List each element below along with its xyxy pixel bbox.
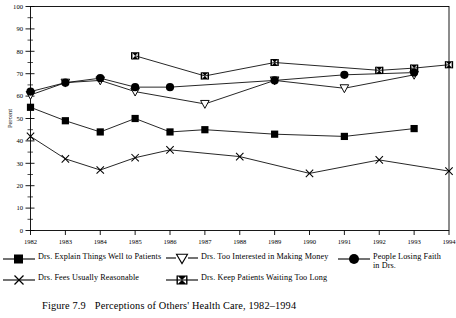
data-point — [271, 131, 278, 138]
bowtie-icon — [165, 273, 199, 287]
data-point — [201, 72, 208, 79]
legend-item-label: Drs. Explain Things Well to Patients — [36, 252, 161, 261]
y-axis-tick-label: 60 — [16, 92, 23, 99]
data-point — [166, 83, 174, 91]
x-axis-tick-label: 1989 — [268, 238, 282, 245]
legend-item-label: Drs. Keep Patients Waiting Too Long — [199, 273, 327, 282]
x-axis-tick-label: 1990 — [303, 238, 317, 245]
x-axis-tick-label: 1992 — [373, 238, 386, 245]
figure-caption: Figure 7.9Perceptions of Others' Health … — [0, 300, 456, 318]
data-point — [340, 71, 348, 79]
y-axis-tick-label: 20 — [16, 182, 23, 189]
y-axis-tick-label: 30 — [16, 160, 23, 167]
line-chart: 0102030405060708090100Percent19821983198… — [0, 0, 456, 248]
legend-row-2: Drs. Fees Usually Reasonable Drs. Keep P… — [0, 273, 456, 289]
data-point — [97, 166, 104, 173]
data-point — [27, 104, 34, 111]
legend-item-explain-things[interactable]: Drs. Explain Things Well to Patients — [2, 252, 192, 266]
y-axis-tick-label: 90 — [16, 25, 23, 32]
data-point — [306, 170, 313, 177]
y-axis-tick-label: 40 — [16, 137, 23, 144]
legend-item-too-interested[interactable]: Drs. Too Interested in Making Money — [165, 252, 360, 266]
data-point — [341, 133, 348, 140]
y-axis-tick-label: 80 — [16, 48, 23, 55]
data-point — [201, 126, 208, 133]
x-axis-tick-label: 1986 — [163, 238, 177, 245]
y-axis-tick-label: 70 — [16, 70, 23, 77]
data-point — [271, 76, 279, 84]
y-axis-tick-label: 10 — [16, 204, 23, 211]
data-point — [132, 115, 139, 122]
series-0 — [27, 104, 418, 140]
legend-row-1: Drs. Explain Things Well to Patients Drs… — [0, 252, 456, 268]
figure-container: 0102030405060708090100Percent19821983198… — [0, 0, 456, 318]
data-point — [201, 100, 210, 108]
legend-item-fees-reasonable[interactable]: Drs. Fees Usually Reasonable — [2, 273, 192, 287]
legend-item-label: Drs. Too Interested in Making Money — [199, 252, 328, 261]
legend-item-label: Drs. Fees Usually Reasonable — [36, 273, 139, 282]
data-point — [97, 128, 104, 135]
x-axis-tick-label: 1983 — [59, 238, 73, 245]
data-point — [132, 52, 139, 59]
chart-plot-area: 0102030405060708090100Percent19821983198… — [0, 0, 456, 248]
x-axis-tick-label: 1988 — [233, 238, 247, 245]
y-axis-title: Percent — [6, 109, 13, 128]
open-down-triangle-icon — [165, 252, 199, 266]
x-axis-tick-label: 1982 — [24, 238, 37, 245]
data-point — [26, 88, 34, 96]
filled-circle-icon — [337, 252, 371, 266]
y-axis-tick-label: 50 — [16, 115, 23, 122]
data-point — [61, 79, 69, 87]
series-1 — [26, 71, 418, 108]
data-point — [166, 128, 173, 135]
data-point — [96, 74, 104, 82]
x-axis-tick-label: 1985 — [129, 238, 143, 245]
y-axis-tick-label: 0 — [20, 227, 24, 234]
legend-item-keep-waiting[interactable]: Drs. Keep Patients Waiting Too Long — [165, 273, 365, 287]
chart-legend: Drs. Explain Things Well to Patients Drs… — [0, 252, 456, 292]
x-axis-tick-label: 1991 — [338, 238, 351, 245]
x-axis-tick-label: 1993 — [408, 238, 422, 245]
data-point — [62, 117, 69, 124]
x-cross-icon — [2, 273, 36, 287]
data-point — [131, 83, 139, 91]
data-point — [340, 85, 349, 93]
legend-item-label: People Losing Faith in Drs. — [371, 252, 445, 271]
y-axis-tick-label: 100 — [13, 3, 24, 10]
x-axis-tick-label: 1987 — [198, 238, 212, 245]
data-point — [131, 154, 138, 161]
series-4 — [132, 52, 453, 79]
caption-text: Perceptions of Others' Health Care, 1982… — [95, 300, 296, 311]
x-axis-tick-label: 1994 — [442, 238, 456, 245]
data-point — [411, 125, 418, 132]
legend-item-losing-faith[interactable]: People Losing Faith in Drs. — [337, 252, 456, 271]
filled-square-icon — [2, 252, 36, 266]
caption-line: Figure 7.9Perceptions of Others' Health … — [0, 300, 456, 311]
x-axis-tick-label: 1984 — [94, 238, 108, 245]
data-point — [62, 155, 69, 162]
caption-number: Figure 7.9 — [42, 300, 86, 311]
series-3 — [27, 133, 453, 177]
